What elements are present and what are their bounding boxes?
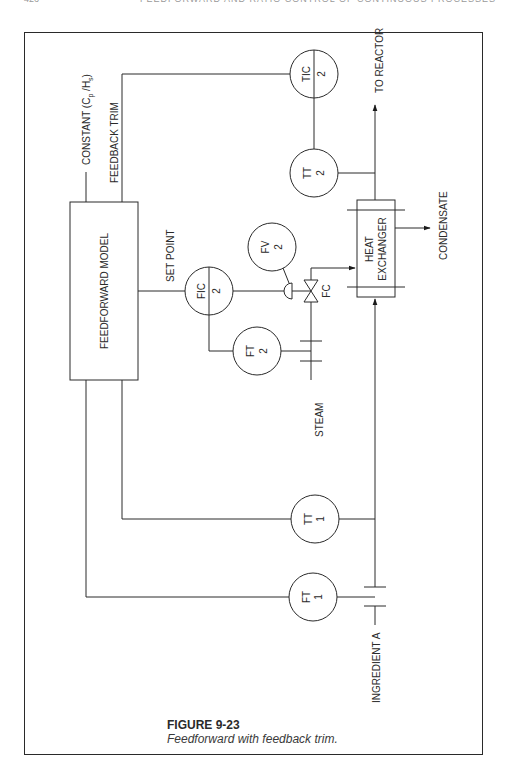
tt1-tag: TT <box>303 513 314 525</box>
tt2-loop: 2 <box>315 170 326 176</box>
condensate-label: CONDENSATE <box>438 191 449 260</box>
steam-label: STEAM <box>314 403 325 437</box>
ft2-tag: FT <box>245 345 256 357</box>
tic2-tag: TIC <box>301 66 312 82</box>
process-diagram: FEEDFORWARD MODEL HEAT EXCHANGER CONSTAN… <box>0 0 505 775</box>
heat-exchanger-block <box>357 200 395 297</box>
fic2-loop: 2 <box>211 288 222 294</box>
ft2-bubble <box>233 327 281 375</box>
constant-label: CONSTANT (Cp /Hs) <box>81 74 95 165</box>
ft2-to-fic2-line <box>209 315 233 351</box>
ft1-tag: FT <box>301 591 312 603</box>
ft2-loop: 2 <box>258 348 269 354</box>
feedback-trim-line <box>122 74 290 202</box>
ingredient-a-label: INGREDIENT A <box>371 632 382 703</box>
feedback-trim-label: FEEDBACK TRIM <box>109 102 120 183</box>
heat-exchanger-label-2: EXCHANGER <box>377 217 388 280</box>
set-point-label: SET POINT <box>165 229 176 282</box>
figure-description: Feedforward with feedback trim. <box>167 732 338 746</box>
steam-to-hx-line <box>311 268 355 280</box>
fv2-loop: 2 <box>273 244 284 250</box>
heat-exchanger-label-1: HEAT <box>364 236 375 262</box>
valve-actuator <box>284 283 292 299</box>
fv2-tag: FV <box>260 240 271 253</box>
fv2-bubble <box>248 223 296 271</box>
feedforward-model-label: FEEDFORWARD MODEL <box>99 233 110 350</box>
tt2-tag: TT <box>302 167 313 179</box>
fv2-leader <box>283 268 289 283</box>
tt2-bubble <box>290 149 338 197</box>
tt1-to-ff-line <box>122 380 291 519</box>
figure-caption: FIGURE 9-23 Feedforward with feedback tr… <box>167 718 338 746</box>
ft1-to-ff-line <box>86 380 289 597</box>
fic2-tag: FIC <box>196 283 207 299</box>
to-reactor-label: TO REACTOR <box>374 28 385 93</box>
fail-closed-label: FC <box>321 284 332 297</box>
tt1-loop: 1 <box>315 516 326 522</box>
figure-number: FIGURE 9-23 <box>167 718 338 732</box>
tic2-loop: 2 <box>316 71 327 77</box>
ft1-loop: 1 <box>313 594 324 600</box>
